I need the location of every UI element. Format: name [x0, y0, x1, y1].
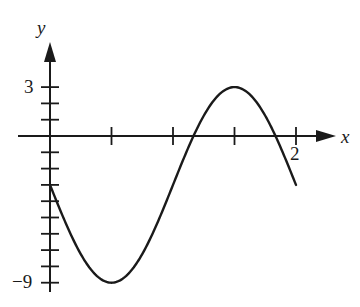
y-tick-label-3: 3 — [24, 76, 34, 97]
function-curve — [50, 87, 296, 283]
y-axis-label: y — [35, 17, 46, 38]
x-axis-label: x — [340, 126, 350, 147]
x-axis-arrow-icon — [316, 130, 336, 142]
x-tick-label-2: 2 — [290, 143, 300, 164]
y-axis-arrow-icon — [44, 42, 56, 62]
y-tick-label-neg9: −9 — [12, 271, 32, 292]
function-graph: y x 3 −9 2 — [0, 0, 360, 307]
